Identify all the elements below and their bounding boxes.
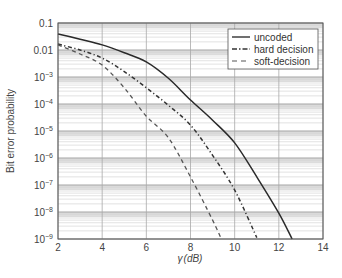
x-tick-label: 14 — [317, 242, 329, 253]
legend-label-hard: hard decision — [254, 44, 313, 55]
x-axis-label: γ(dB) — [178, 253, 203, 264]
y-tick-label: 10−3 — [34, 71, 53, 83]
x-tick-label: 6 — [144, 242, 150, 253]
x-tick-label: 4 — [99, 242, 105, 253]
legend: uncoded hard decision soft-decision — [228, 29, 318, 69]
x-tick-labels: 2468101214 — [55, 242, 329, 253]
x-tick-label: 2 — [55, 242, 61, 253]
y-tick-labels: 0.10.0110−310−410−510−610−710−810−9 — [34, 18, 54, 245]
ber-chart: 2468101214 0.10.0110−310−410−510−610−710… — [0, 0, 342, 278]
y-tick-label: 10−4 — [34, 98, 53, 110]
legend-label-uncoded: uncoded — [254, 32, 292, 43]
y-tick-label: 0.01 — [34, 45, 54, 56]
x-tick-label: 8 — [188, 242, 194, 253]
y-tick-label: 10−5 — [34, 125, 53, 137]
y-tick-label: 10−9 — [34, 233, 53, 245]
y-tick-label: 10−6 — [34, 152, 53, 164]
x-tick-label: 12 — [273, 242, 285, 253]
x-tick-label: 10 — [229, 242, 241, 253]
y-tick-label: 10−8 — [34, 206, 53, 218]
y-tick-label: 0.1 — [39, 18, 53, 29]
y-tick-label: 10−7 — [34, 179, 53, 191]
legend-label-soft: soft-decision — [254, 56, 310, 67]
y-axis-label: Bit error probability — [5, 89, 16, 173]
